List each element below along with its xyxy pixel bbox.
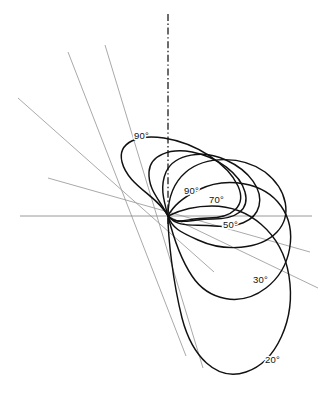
- angle-label-outer-90: 90°: [134, 130, 149, 141]
- radial-5: [168, 216, 318, 288]
- angle-labels-group: 90°90°90°90°70°70°50°50°30°30°20°20°: [134, 130, 280, 365]
- polar-diagram-figure: 90°90°90°90°70°70°50°50°30°30°20°20°: [0, 0, 329, 406]
- angle-label-inner-90: 90°: [184, 185, 199, 196]
- polar-plot-canvas: 90°90°90°90°70°70°50°50°30°30°20°20°: [0, 0, 329, 406]
- radial-3: [105, 45, 203, 368]
- angle-label-deg-30: 30°: [253, 274, 268, 285]
- loop-50: [168, 160, 286, 248]
- angle-label-deg-50: 50°: [223, 219, 238, 230]
- loop-20: [168, 206, 290, 374]
- angle-label-deg-20: 20°: [265, 354, 280, 365]
- loop-90-outer: [121, 137, 240, 221]
- angle-label-deg-70: 70°: [209, 194, 224, 205]
